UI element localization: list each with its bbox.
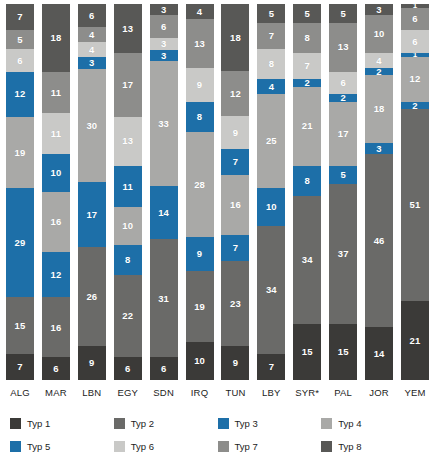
bar-column-lby[interactable]: 57842510347 <box>257 4 285 380</box>
bar-segment[interactable]: 13 <box>186 19 214 68</box>
bar-segment[interactable]: 5 <box>257 4 285 23</box>
legend-item-typ-6[interactable]: Typ 6 <box>114 441 218 452</box>
bar-segment[interactable]: 10 <box>114 207 142 245</box>
bar-segment[interactable]: 12 <box>401 57 429 102</box>
legend-item-typ-8[interactable]: Typ 8 <box>321 441 425 452</box>
bar-segment[interactable]: 4 <box>78 42 106 57</box>
bar-segment[interactable]: 8 <box>114 245 142 275</box>
bar-column-tun[interactable]: 181297167239 <box>221 4 249 380</box>
bar-segment[interactable]: 15 <box>329 324 357 380</box>
bar-segment[interactable]: 17 <box>329 102 357 166</box>
bar-segment[interactable]: 34 <box>257 226 285 354</box>
bar-segment[interactable]: 14 <box>365 327 393 380</box>
bar-segment[interactable]: 3 <box>78 57 106 68</box>
bar-segment[interactable]: 12 <box>42 252 70 297</box>
bar-segment[interactable]: 4 <box>365 53 393 68</box>
bar-segment[interactable]: 2 <box>293 79 321 87</box>
bar-segment[interactable]: 2 <box>401 102 429 110</box>
bar-segment[interactable]: 10 <box>186 342 214 380</box>
bar-segment[interactable]: 6 <box>401 8 429 31</box>
bar-segment[interactable]: 33 <box>150 61 178 186</box>
bar-segment[interactable]: 6 <box>114 357 142 380</box>
bar-column-syr[interactable]: 58722183415 <box>293 4 321 380</box>
legend-item-typ-7[interactable]: Typ 7 <box>218 441 322 452</box>
bar-segment[interactable]: 10 <box>365 15 393 53</box>
legend-item-typ-5[interactable]: Typ 5 <box>10 441 114 452</box>
bar-segment[interactable]: 3 <box>150 38 178 49</box>
bar-segment[interactable]: 9 <box>221 116 249 150</box>
bar-segment[interactable]: 5 <box>329 166 357 185</box>
legend-item-typ-3[interactable]: Typ 3 <box>218 418 322 429</box>
bar-segment[interactable]: 13 <box>114 4 142 53</box>
bar-segment[interactable]: 3 <box>365 4 393 15</box>
bar-segment[interactable]: 21 <box>293 87 321 166</box>
bar-segment[interactable]: 34 <box>293 196 321 324</box>
bar-segment[interactable]: 4 <box>186 4 214 19</box>
bar-segment[interactable]: 51 <box>401 109 429 301</box>
bar-segment[interactable]: 11 <box>42 113 70 154</box>
bar-segment[interactable]: 15 <box>6 297 34 353</box>
bar-segment[interactable]: 4 <box>257 79 285 94</box>
bar-segment[interactable]: 11 <box>114 166 142 207</box>
bar-segment[interactable]: 7 <box>293 53 321 79</box>
bar-segment[interactable]: 17 <box>78 182 106 247</box>
bar-segment[interactable]: 3 <box>150 4 178 15</box>
bar-segment[interactable]: 7 <box>221 235 249 261</box>
bar-segment[interactable]: 6 <box>78 4 106 27</box>
bar-segment[interactable]: 8 <box>293 166 321 196</box>
bar-segment[interactable]: 8 <box>293 23 321 53</box>
bar-segment[interactable]: 10 <box>257 188 285 226</box>
bar-column-alg[interactable]: 756121929157 <box>6 4 34 380</box>
bar-segment[interactable]: 5 <box>329 4 357 23</box>
bar-column-jor[interactable]: 310421834614 <box>365 4 393 380</box>
bar-segment[interactable]: 8 <box>257 49 285 79</box>
bar-segment[interactable]: 5 <box>293 4 321 23</box>
bar-segment[interactable]: 12 <box>6 72 34 117</box>
bar-segment[interactable]: 37 <box>329 184 357 323</box>
bar-segment[interactable]: 14 <box>150 186 178 239</box>
bar-segment[interactable]: 17 <box>114 53 142 117</box>
bar-column-irq[interactable]: 413982891910 <box>186 4 214 380</box>
bar-segment[interactable]: 16 <box>42 192 70 252</box>
bar-segment[interactable]: 6 <box>150 357 178 380</box>
bar-segment[interactable]: 9 <box>186 68 214 102</box>
bar-segment[interactable]: 7 <box>257 23 285 49</box>
bar-column-sdn[interactable]: 36333314316 <box>150 4 178 380</box>
bar-segment[interactable]: 13 <box>114 117 142 166</box>
bar-segment[interactable]: 2 <box>329 94 357 102</box>
bar-segment[interactable]: 23 <box>221 261 249 347</box>
bar-segment[interactable]: 3 <box>365 143 393 154</box>
bar-segment[interactable]: 16 <box>42 297 70 357</box>
bar-segment[interactable]: 12 <box>221 71 249 116</box>
bar-segment[interactable]: 3 <box>150 50 178 61</box>
bar-column-egy[interactable]: 13171311108226 <box>114 4 142 380</box>
bar-segment[interactable]: 15 <box>293 324 321 380</box>
bar-segment[interactable]: 2 <box>365 68 393 76</box>
bar-segment[interactable]: 6 <box>150 15 178 38</box>
legend-item-typ-2[interactable]: Typ 2 <box>114 418 218 429</box>
bar-column-lbn[interactable]: 64433017269 <box>78 4 106 380</box>
bar-segment[interactable]: 18 <box>221 4 249 71</box>
bar-segment[interactable]: 4 <box>78 27 106 42</box>
bar-segment[interactable]: 31 <box>150 239 178 357</box>
bar-segment[interactable]: 46 <box>365 154 393 327</box>
bar-segment[interactable]: 16 <box>221 175 249 235</box>
bar-segment[interactable]: 25 <box>257 94 285 188</box>
bar-segment[interactable]: 7 <box>257 354 285 380</box>
bar-segment[interactable]: 21 <box>401 301 429 380</box>
bar-segment[interactable]: 6 <box>42 357 70 380</box>
bar-segment[interactable]: 9 <box>78 346 106 380</box>
bar-segment[interactable]: 28 <box>186 132 214 237</box>
bar-segment[interactable]: 6 <box>6 49 34 72</box>
bar-segment[interactable]: 30 <box>78 69 106 183</box>
bar-segment[interactable]: 13 <box>329 23 357 72</box>
bar-segment[interactable]: 19 <box>186 271 214 342</box>
bar-segment[interactable]: 6 <box>329 72 357 95</box>
bar-segment[interactable]: 9 <box>186 237 214 271</box>
bar-segment[interactable]: 18 <box>42 4 70 72</box>
bar-segment[interactable]: 7 <box>6 354 34 380</box>
bar-column-pal[interactable]: 513621753715 <box>329 4 357 380</box>
bar-column-mar[interactable]: 181111101612166 <box>42 4 70 380</box>
bar-segment[interactable]: 11 <box>42 72 70 113</box>
bar-segment[interactable]: 22 <box>114 275 142 358</box>
